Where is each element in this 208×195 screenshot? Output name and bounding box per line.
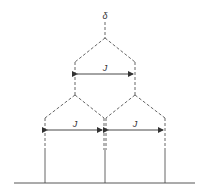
split1-left [75, 38, 105, 62]
j-label-left: J [72, 119, 78, 129]
delta-label: δ [102, 11, 108, 21]
j-label-top: J [102, 63, 108, 73]
splitting-tree-diagram: δ J J J [0, 0, 208, 195]
split1-right [105, 38, 135, 62]
j-label-right: J [132, 119, 138, 129]
